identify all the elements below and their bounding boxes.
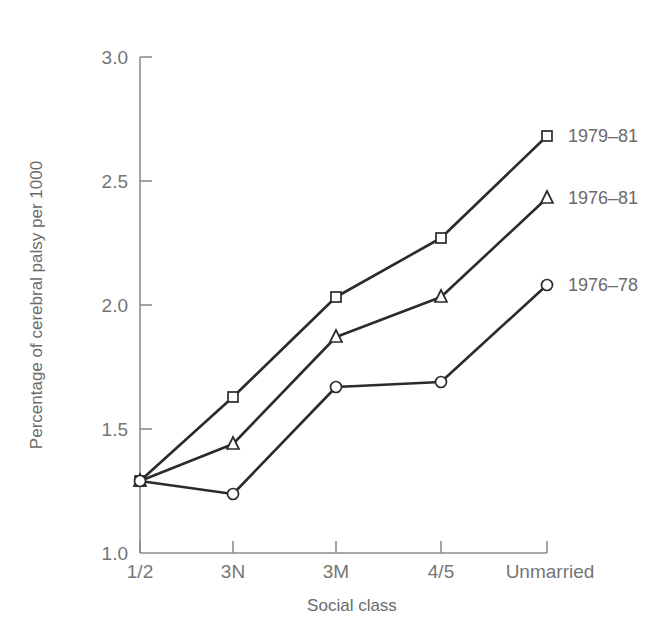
legend: 1979–81 1976–81 1976–78 [568, 126, 638, 295]
data-point-marker-circle [436, 377, 447, 388]
legend-label-1979-81: 1979–81 [568, 126, 638, 146]
x-tick-label-3n: 3N [221, 561, 245, 582]
x-tick-label-4-5: 4/5 [428, 561, 454, 582]
data-point-marker-square [436, 233, 446, 243]
data-point-marker-square [228, 392, 238, 402]
axis-group [140, 57, 547, 553]
y-tick-label-1-0: 1.0 [102, 543, 128, 564]
y-tick-label-2-0: 2.0 [102, 295, 128, 316]
chart-container: 3.0 2.5 2.0 1.5 1.0 1/2 3N 3M 4/5 Unmarr… [0, 0, 670, 633]
series-1979-81 [135, 131, 552, 486]
y-tick-label-3-0: 3.0 [102, 47, 128, 68]
data-point-marker-triangle [541, 191, 553, 203]
line-chart-figure: 3.0 2.5 2.0 1.5 1.0 1/2 3N 3M 4/5 Unmarr… [0, 0, 670, 633]
data-point-marker-circle [228, 489, 239, 500]
legend-label-1976-81: 1976–81 [568, 188, 638, 208]
x-tick-label-1-2: 1/2 [127, 561, 153, 582]
series-line-1979-81 [140, 136, 547, 481]
x-axis-title: Social class [307, 596, 397, 615]
data-point-marker-circle [135, 476, 146, 487]
data-point-marker-square [331, 292, 341, 302]
x-tick-label-3m: 3M [323, 561, 349, 582]
x-tick-label-unmarried: Unmarried [506, 561, 595, 582]
series-1976-78 [135, 280, 553, 500]
y-tick-label-1-5: 1.5 [102, 419, 128, 440]
data-point-marker-square [542, 131, 552, 141]
x-tick-labels: 1/2 3N 3M 4/5 Unmarried [127, 561, 595, 582]
data-point-marker-circle [542, 280, 553, 291]
legend-label-1976-78: 1976–78 [568, 275, 638, 295]
y-axis-title: Percentage of cerebral palsy per 1000 [27, 161, 46, 449]
data-point-marker-circle [331, 382, 342, 393]
y-tick-labels: 3.0 2.5 2.0 1.5 1.0 [102, 47, 128, 564]
y-tick-label-2-5: 2.5 [102, 171, 128, 192]
series-line-1976-78 [140, 285, 547, 494]
